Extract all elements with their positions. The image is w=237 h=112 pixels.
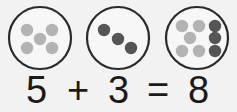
group-five — [9, 7, 71, 69]
dark-dot — [209, 45, 221, 57]
equation: 5 + 3 = 8 — [0, 70, 237, 110]
group-three — [87, 7, 149, 69]
light-dot — [46, 24, 58, 36]
light-dot — [21, 42, 33, 54]
equals-sign: = — [147, 70, 169, 110]
dark-dot — [112, 33, 124, 45]
light-dot — [184, 32, 196, 44]
addend-three: 3 — [108, 70, 129, 110]
light-dot — [176, 45, 188, 57]
light-dot — [176, 20, 188, 32]
sum-eight: 8 — [188, 70, 209, 110]
dark-dot — [98, 24, 110, 36]
plus-sign: + — [67, 70, 89, 110]
dark-dot — [209, 32, 221, 44]
dark-dot — [209, 20, 221, 32]
addend-five: 5 — [26, 70, 47, 110]
light-dot — [21, 24, 33, 36]
light-dot — [46, 42, 58, 54]
dark-dot — [125, 42, 137, 54]
light-dot — [193, 45, 205, 57]
light-dot — [193, 20, 205, 32]
light-dot — [34, 33, 46, 45]
group-eight — [166, 7, 228, 69]
dot-groups-diagram — [0, 0, 237, 75]
